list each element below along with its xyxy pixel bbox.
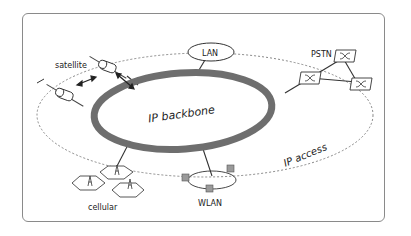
- switch-icon: [299, 72, 321, 84]
- satellite-node: satellite: [37, 55, 134, 106]
- cellular-label: cellular: [88, 203, 118, 212]
- ip-backbone-label: IP backbone: [147, 103, 215, 125]
- cellular-node: cellular: [72, 165, 144, 212]
- lan-label: LAN: [202, 49, 218, 58]
- lan-node: LAN: [188, 43, 234, 61]
- pstn-node: PSTN: [299, 50, 372, 90]
- satellite-icon: [87, 55, 130, 78]
- switch-icon: [350, 78, 372, 90]
- access-point-icon: [182, 165, 234, 192]
- switch-icon: [334, 50, 356, 62]
- pstn-label: PSTN: [311, 50, 332, 59]
- satellite-label: satellite: [55, 61, 87, 70]
- wlan-node: WLAN: [182, 165, 236, 208]
- wlan-label: WLAN: [198, 199, 222, 208]
- network-diagram: IP backbone IP access LAN PSTN satellite: [0, 0, 411, 236]
- satellite-icon: [44, 83, 87, 106]
